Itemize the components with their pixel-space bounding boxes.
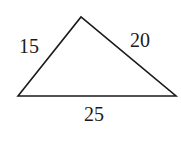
- triangle-diagram: 15 20 25: [0, 0, 181, 144]
- side-base-label: 25: [84, 103, 104, 125]
- side-left-label: 15: [19, 35, 39, 57]
- triangle: [18, 17, 176, 96]
- side-right-label: 20: [130, 29, 150, 51]
